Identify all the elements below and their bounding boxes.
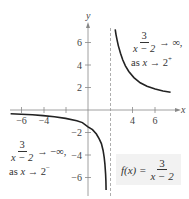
numerator: 3 xyxy=(18,139,27,152)
formula-lhs: f(x) = xyxy=(121,164,146,176)
fraction: 3 x − 2 xyxy=(9,139,35,164)
denominator: x − 2 xyxy=(148,170,175,182)
limit-note-left: 3 x − 2 → −∞, as x → 2− xyxy=(9,139,66,177)
superscript-plus: + xyxy=(168,55,172,63)
y-axis-label: y xyxy=(85,10,91,21)
approach-text: → 2 xyxy=(25,166,46,177)
fraction: 3 x − 2 xyxy=(148,157,175,182)
limit-note-right: 3 x − 2 → ∞, as x → 2+ xyxy=(131,30,183,68)
x-axis-label: x xyxy=(180,104,186,115)
numerator: 3 xyxy=(157,157,167,170)
y-tick-label: 6 xyxy=(77,37,82,48)
y-tick-label: −6 xyxy=(71,172,82,183)
denominator: x − 2 xyxy=(131,43,157,55)
y-tick-label: −4 xyxy=(71,150,82,161)
approach-text: → 2 xyxy=(147,57,168,68)
x-tick-label: −6 xyxy=(16,115,27,126)
x-tick-label: 6 xyxy=(153,115,158,126)
as-text: as xyxy=(9,166,20,177)
y-axis-arrow-icon xyxy=(86,22,90,28)
y-tick-label: −2 xyxy=(71,127,82,138)
y-tick-label: 4 xyxy=(77,60,82,71)
fraction: 3 x − 2 xyxy=(131,30,157,55)
denominator: x − 2 xyxy=(9,152,35,164)
limit-arrow-text: → −∞, xyxy=(37,146,66,157)
limit-arrow-text: → ∞, xyxy=(159,37,182,48)
y-tick-label: 2 xyxy=(77,82,82,93)
superscript-minus: − xyxy=(46,164,50,172)
function-formula: f(x) = 3 x − 2 xyxy=(116,154,181,185)
x-tick-label: 4 xyxy=(130,115,135,126)
numerator: 3 xyxy=(140,30,149,43)
as-text: as xyxy=(131,57,142,68)
